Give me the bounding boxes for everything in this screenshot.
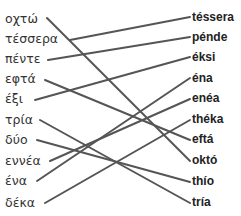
right-word: théka (192, 112, 223, 126)
left-word: τρία (5, 113, 33, 127)
left-word: πέντε (5, 52, 41, 66)
left-word: εφτά (5, 72, 36, 86)
right-word: éna (192, 71, 213, 85)
right-word: éksi (192, 50, 215, 64)
right-word: thío (192, 174, 214, 188)
right-word: eftá (192, 132, 213, 146)
line-thio (37, 140, 190, 182)
right-word: enéa (192, 91, 219, 105)
right-word: téssera (192, 10, 234, 24)
right-word: októ (192, 153, 217, 167)
left-word: τέσσερα (5, 32, 58, 46)
left-word: δέκα (5, 196, 35, 210)
left-word: ένα (5, 174, 27, 188)
line-tessera (70, 17, 190, 40)
left-word: δύο (5, 133, 28, 147)
left-word: έξι (5, 92, 23, 106)
left-word: εννέα (5, 154, 41, 168)
right-word: tría (192, 195, 211, 209)
right-word: pénde (192, 30, 227, 44)
line-enea (50, 99, 190, 161)
left-word: οχτώ (5, 12, 38, 26)
